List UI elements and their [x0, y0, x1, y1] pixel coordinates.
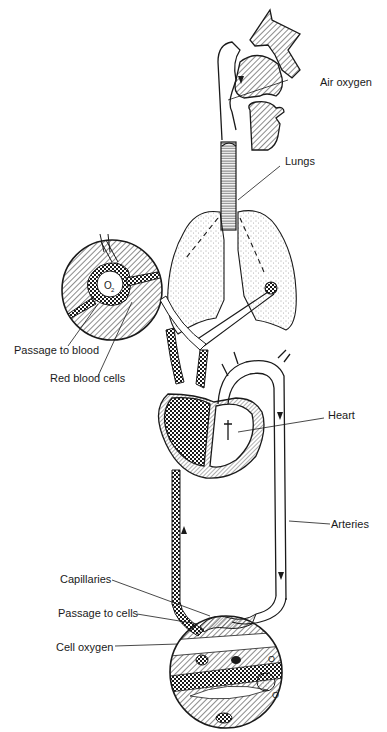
tissue-inset: [168, 614, 284, 730]
label-heart: Heart: [328, 409, 355, 421]
vena-cava: [172, 470, 204, 636]
heart: [158, 394, 264, 478]
label-passage-to-cells: Passage to cells: [58, 607, 138, 619]
lungs: [168, 211, 297, 346]
label-capillaries: Capillaries: [60, 573, 111, 585]
trachea: [221, 142, 236, 230]
right-side-deoxygenated: [164, 398, 210, 466]
label-arteries: Arteries: [331, 518, 369, 530]
leader-cell-oxygen: [115, 644, 178, 646]
right-lung: [238, 211, 296, 330]
cell-o2-symbol-b: O: [272, 690, 279, 700]
label-passage-to-blood: Passage to blood: [14, 344, 99, 356]
oxygen-circulation-illustration: O 2: [0, 0, 387, 732]
label-cell-oxygen: Cell oxygen: [56, 641, 113, 653]
label-lungs: Lungs: [285, 155, 315, 167]
label-air-oxygen: Air oxygen: [320, 76, 372, 88]
cell-o2-symbol-a: O: [268, 654, 275, 664]
label-red-blood-cells: Red blood cells: [50, 372, 125, 384]
leader-arteries: [289, 521, 330, 524]
leader-lungs: [238, 166, 280, 200]
